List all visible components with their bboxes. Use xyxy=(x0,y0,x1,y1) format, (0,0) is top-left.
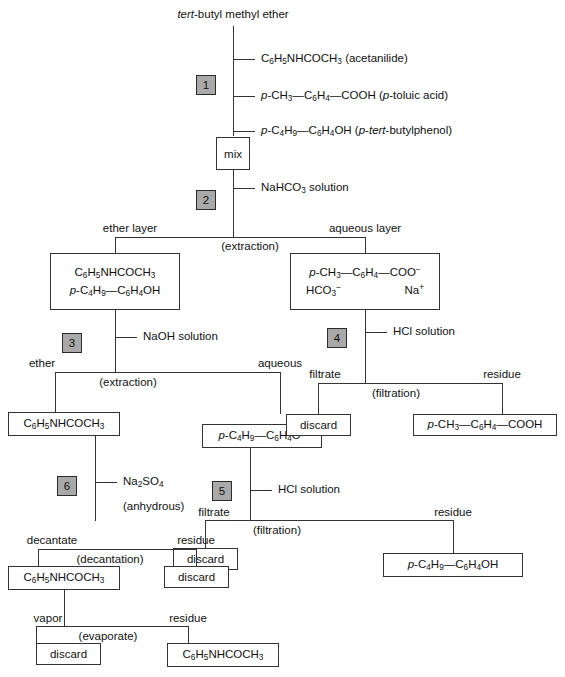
diagram-title: tert-butyl methyl ether xyxy=(177,8,288,21)
toluic-acid-text: p-CH3—C6H4—COOH xyxy=(428,416,543,434)
label-evaporate: (evaporate) xyxy=(79,630,138,643)
label-vapor: vapor xyxy=(34,612,63,625)
step-1-number: 1 xyxy=(203,79,209,91)
split-6-right-drop xyxy=(196,549,197,566)
label-aqueous: aqueous xyxy=(258,357,302,370)
tick-acetanilide xyxy=(233,59,255,60)
label-residue-6: residue xyxy=(177,534,215,547)
tick-na2so4 xyxy=(95,482,117,483)
split-7-right-drop xyxy=(188,626,189,643)
step-4-number: 4 xyxy=(334,332,340,344)
label-ether-layer: ether layer xyxy=(103,222,157,235)
aqueous-layer-box: p-CH3—C6H4—COO− HCO3−Na+ xyxy=(290,253,440,310)
butylphenol-text: p-C4H9—C6H4OH xyxy=(408,556,499,574)
label-residue-4: residue xyxy=(483,368,521,381)
split-6-horizontal xyxy=(38,549,196,550)
acetanilide-down-line xyxy=(95,436,96,521)
step-6-number: 6 xyxy=(64,480,70,492)
ether-box-line-1: C6H5NHCOCH3 xyxy=(75,264,156,282)
split-4-horizontal xyxy=(318,383,502,384)
aqueous-box-line-1: p-CH3—C6H4—COO− xyxy=(309,264,420,282)
step-5-badge: 5 xyxy=(212,481,232,501)
acetanilide-final-box: C6H5NHCOCH3 xyxy=(167,643,279,667)
aqueous-box-down-line xyxy=(365,310,366,383)
aqueous-box-line-2: HCO3−Na+ xyxy=(306,282,424,300)
label-extraction-1: (extraction) xyxy=(221,240,279,253)
mix-box: mix xyxy=(216,137,250,170)
label-filtrate-4: filtrate xyxy=(309,368,340,381)
split-4-right-drop xyxy=(502,383,503,414)
label-decantation: (decantation) xyxy=(76,553,143,566)
acetanilide-mid-text: C6H5NHCOCH3 xyxy=(24,415,105,433)
discard-6-box: discard xyxy=(164,566,229,588)
ether-layer-box: C6H5NHCOCH3 p-C4H9—C6H4OH xyxy=(50,253,180,310)
split-1-right-drop xyxy=(365,237,366,253)
label-residue-7: residue xyxy=(169,612,207,625)
label-filtration-4: (filtration) xyxy=(372,387,420,400)
reagent-toluic-acid: p-CH3—C6H4—COOH (p-toluic acid) xyxy=(261,89,448,103)
label-residue-5: residue xyxy=(434,506,472,519)
split-7-horizontal xyxy=(36,626,188,627)
discard-5-text: discard xyxy=(187,551,224,567)
reagent-hcl-5: HCl solution xyxy=(278,483,340,496)
step-5-number: 5 xyxy=(219,485,225,497)
split-6-left-drop xyxy=(38,549,39,566)
label-filtration-5: (filtration) xyxy=(253,524,301,537)
acetanilide-final-text: C6H5NHCOCH3 xyxy=(183,646,264,664)
split-5-right-drop xyxy=(453,520,454,553)
split-4-left-drop xyxy=(318,383,319,414)
toluic-acid-box: p-CH3—C6H4—COOH xyxy=(413,414,557,436)
acetanilide-mid-box: C6H5NHCOCH3 xyxy=(8,412,120,436)
tick-naoh xyxy=(115,337,137,338)
mix-label: mix xyxy=(224,147,242,161)
step-4-badge: 4 xyxy=(327,328,347,348)
discard-4-text: discard xyxy=(300,417,337,433)
tick-hcl-4 xyxy=(365,332,387,333)
label-aqueous-layer: aqueous layer xyxy=(329,222,401,235)
acetanilide-dry-text: C6H5NHCOCH3 xyxy=(24,569,105,587)
step-3-number: 3 xyxy=(69,337,75,349)
split-2-right-drop xyxy=(280,372,281,414)
step-3-badge: 3 xyxy=(62,333,82,353)
discard-4-box: discard xyxy=(286,414,351,436)
reagent-na2so4-anhydrous: (anhydrous) xyxy=(123,500,184,513)
label-filtrate-5: filtrate xyxy=(198,506,229,519)
label-extraction-2: (extraction) xyxy=(99,376,157,389)
step-6-badge: 6 xyxy=(57,476,77,496)
discard-7-box: discard xyxy=(36,643,101,665)
flowchart-canvas: tert-butyl methyl ether C6H5NHCOCH3 (ace… xyxy=(0,0,565,677)
reagent-acetanilide: C6H5NHCOCH3 (acetanilide) xyxy=(261,52,408,66)
split-2-horizontal xyxy=(55,372,280,373)
step-2-badge: 2 xyxy=(196,190,216,210)
phenolate-down-line xyxy=(250,448,251,520)
step-2-number: 2 xyxy=(203,194,209,206)
discard-6-text: discard xyxy=(178,569,215,585)
label-ether: ether xyxy=(29,357,55,370)
butylphenol-box: p-C4H9—C6H4OH xyxy=(383,553,523,577)
reagent-hcl-4: HCl solution xyxy=(393,325,455,338)
discard-7-text: discard xyxy=(50,646,87,662)
split-1-horizontal xyxy=(115,237,365,238)
tick-hcl-5 xyxy=(250,490,272,491)
split-1-left-drop xyxy=(115,237,116,253)
reagent-nahco3: NaHCO3 solution xyxy=(261,181,349,195)
split-2-left-drop xyxy=(55,372,56,412)
acetanilide-dry-box: C6H5NHCOCH3 xyxy=(8,566,120,590)
tick-nahco3 xyxy=(233,188,255,189)
reagent-butylphenol: p-C4H9—C6H4OH (p-tert-butylphenol) xyxy=(261,124,452,138)
tick-toluic-acid xyxy=(233,96,255,97)
trunk-line-top xyxy=(233,26,234,136)
reagent-na2so4: Na2SO4 xyxy=(123,475,164,489)
split-7-left-drop xyxy=(36,626,37,643)
ether-box-line-2: p-C4H9—C6H4OH xyxy=(70,282,161,300)
trunk-line-mix-to-split xyxy=(233,170,234,237)
split-5-horizontal xyxy=(205,520,453,521)
reagent-naoh: NaOH solution xyxy=(143,330,218,343)
label-decantate: decantate xyxy=(27,534,78,547)
tick-butylphenol xyxy=(233,131,255,132)
ether-box-down-line xyxy=(115,310,116,372)
acetanilide-dry-down-line xyxy=(64,590,65,626)
step-1-badge: 1 xyxy=(196,75,216,95)
